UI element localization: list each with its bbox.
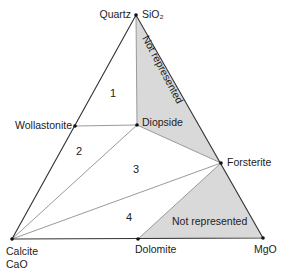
- forsterite-point: [219, 161, 223, 165]
- calcite-point: [10, 237, 14, 241]
- region-2-label: 2: [76, 145, 82, 157]
- not-represented-lower-region: [138, 163, 263, 239]
- region-3-label: 3: [133, 163, 139, 175]
- not-represented-lower-label: Not represented: [172, 215, 247, 227]
- region-1-label: 1: [110, 87, 116, 99]
- forsterite-label: Forsterite: [227, 156, 272, 168]
- dolomite-label: Dolomite: [135, 243, 177, 255]
- mgo-label: MgO: [254, 243, 277, 255]
- diopside-point: [135, 123, 139, 127]
- wollastonite-label: Wollastonite: [15, 119, 72, 131]
- quartz-point: [134, 13, 138, 17]
- region-4-label: 4: [126, 211, 132, 223]
- ternary-diagram: Quartz SiO₂ Calcite CaO MgO Wollastonite…: [0, 0, 281, 270]
- cao-label: CaO: [6, 258, 28, 270]
- wollastonite-point: [73, 124, 77, 128]
- sio2-label: SiO₂: [142, 8, 164, 20]
- calcite-label: Calcite: [6, 245, 38, 257]
- diopside-label: Diopside: [142, 116, 183, 128]
- quartz-label: Quartz: [99, 8, 131, 20]
- mgo-point: [261, 236, 265, 240]
- dolomite-point: [136, 237, 140, 241]
